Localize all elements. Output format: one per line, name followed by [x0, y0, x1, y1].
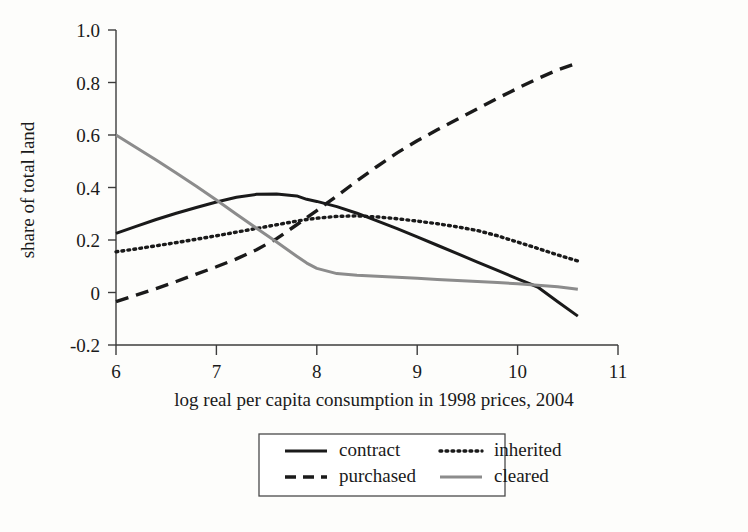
legend-label-purchased: purchased — [339, 465, 417, 486]
legend-label-contract: contract — [339, 439, 401, 460]
x-tick-label: 9 — [412, 361, 422, 382]
legend-label-cleared: cleared — [494, 465, 549, 486]
y-axis-title: share of total land — [17, 121, 38, 258]
y-tick-label: -0.2 — [70, 335, 100, 356]
series-line-inherited — [116, 216, 578, 261]
y-tick-label: 1.0 — [76, 20, 100, 41]
x-axis-tick-labels: 6 7 8 9 10 11 — [111, 361, 627, 382]
y-tick-label: 0.4 — [76, 178, 100, 199]
series-group — [116, 63, 578, 316]
y-tick-label: 0.8 — [76, 73, 100, 94]
y-axis-ticks — [108, 30, 116, 345]
y-tick-label: 0.6 — [76, 125, 100, 146]
x-tick-label: 7 — [212, 361, 222, 382]
series-line-purchased — [116, 63, 578, 302]
line-chart: share of total land 1.0 0.8 0.6 0.4 0.2 … — [0, 0, 748, 532]
y-tick-label: 0.2 — [76, 230, 100, 251]
x-tick-label: 10 — [508, 361, 527, 382]
x-tick-label: 6 — [111, 361, 121, 382]
x-axis-ticks — [116, 345, 618, 355]
x-axis-title: log real per capita consumption in 1998 … — [174, 389, 574, 410]
x-tick-label: 11 — [609, 361, 627, 382]
series-line-contract — [116, 194, 578, 316]
y-tick-label: 0 — [91, 283, 101, 304]
y-axis-tick-labels: 1.0 0.8 0.6 0.4 0.2 0 -0.2 — [70, 20, 101, 356]
legend-label-inherited: inherited — [494, 439, 562, 460]
chart-page: share of total land 1.0 0.8 0.6 0.4 0.2 … — [0, 0, 748, 532]
x-tick-label: 8 — [312, 361, 322, 382]
